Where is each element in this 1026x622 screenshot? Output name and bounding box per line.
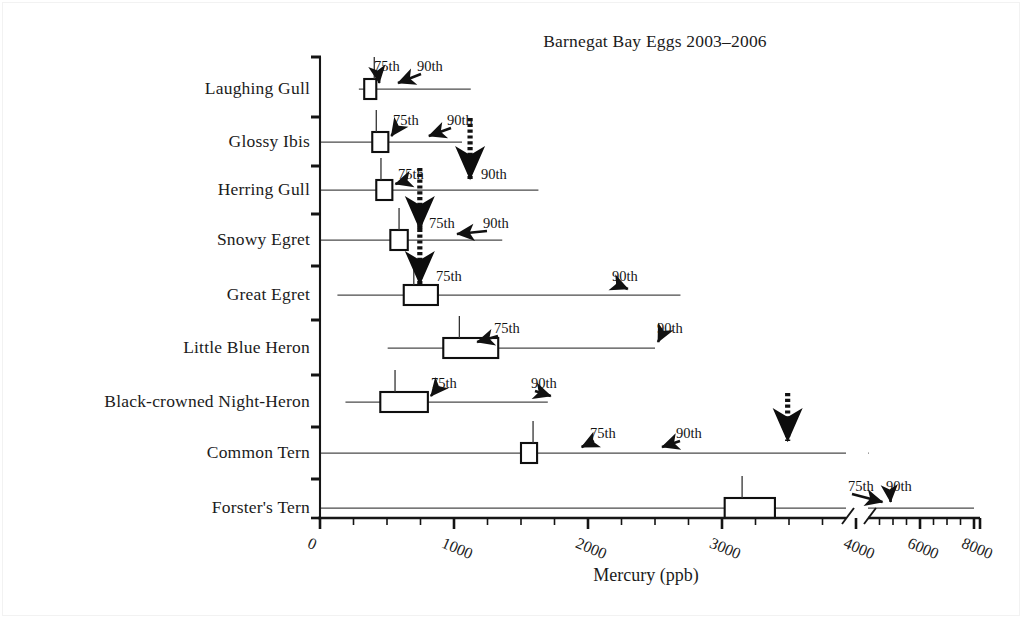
percentile-label-75th: 75th — [494, 320, 520, 337]
axis-break-mark — [842, 508, 854, 524]
percentile-label-90th: 90th — [657, 320, 683, 337]
axis-break-mark — [864, 508, 876, 524]
box — [443, 338, 498, 358]
percentile-label-75th: 75th — [848, 478, 874, 495]
category-label: Snowy Egret — [217, 229, 310, 250]
box — [364, 79, 376, 99]
box — [372, 132, 388, 152]
category-label: Glossy Ibis — [229, 131, 310, 152]
box-plot-row — [388, 316, 655, 358]
category-label: Common Tern — [207, 442, 310, 463]
percentile-label-75th: 75th — [590, 425, 616, 442]
category-label: Herring Gull — [218, 179, 310, 200]
percentile-label-75th: 75th — [393, 112, 419, 129]
percentile-arrow — [429, 128, 451, 136]
percentile-arrow — [398, 74, 421, 83]
category-label: Laughing Gull — [205, 78, 310, 99]
box — [376, 180, 392, 200]
percentile-label-75th: 75th — [374, 58, 400, 75]
percentile-arrow — [391, 128, 397, 136]
percentile-arrow — [852, 494, 883, 502]
box — [404, 285, 438, 305]
category-label: Black-crowned Night-Heron — [104, 391, 310, 412]
percentile-label-90th: 90th — [417, 58, 443, 75]
percentile-label-90th: 90th — [483, 215, 509, 232]
chart-screenshot: Barnegat Bay Eggs 2003–2006 Mercury (ppb… — [0, 0, 1026, 622]
box — [390, 230, 407, 250]
percentile-label-90th: 90th — [481, 166, 507, 183]
category-label: Great Egret — [227, 284, 310, 305]
percentile-label-75th: 75th — [429, 215, 455, 232]
percentile-label-75th: 75th — [431, 375, 457, 392]
percentile-arrow — [378, 74, 379, 83]
percentile-label-90th: 90th — [886, 478, 912, 495]
percentile-label-90th: 90th — [531, 375, 557, 392]
box-plot-row — [320, 476, 974, 518]
box — [380, 392, 428, 412]
percentile-label-75th: 75th — [398, 166, 424, 183]
percentile-label-90th: 90th — [447, 112, 473, 129]
box-plot-canvas — [0, 0, 1026, 622]
percentile-arrow — [890, 494, 891, 502]
box — [725, 498, 775, 518]
percentile-label-75th: 75th — [436, 268, 462, 285]
percentile-label-90th: 90th — [612, 268, 638, 285]
category-label: Little Blue Heron — [183, 337, 310, 358]
box — [521, 443, 537, 463]
box-plot-row — [320, 208, 502, 250]
category-label: Forster's Tern — [212, 497, 310, 518]
percentile-label-90th: 90th — [676, 425, 702, 442]
